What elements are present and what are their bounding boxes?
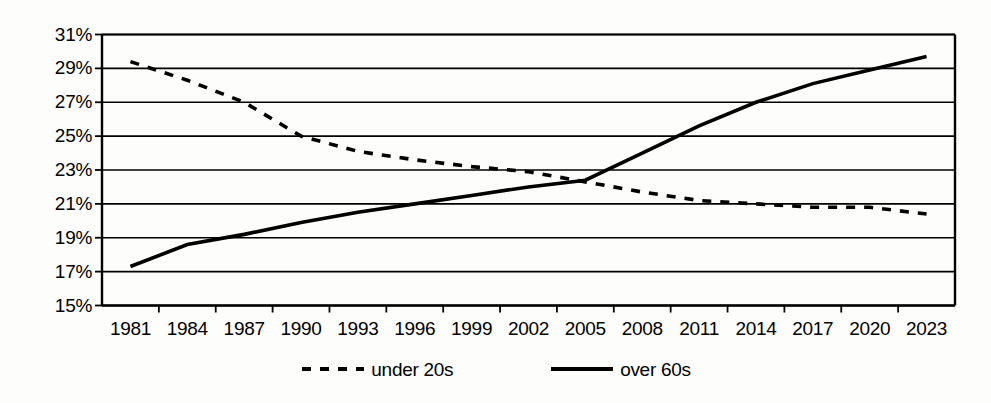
- line-chart: 31%29%27%25%23%21%19%17%15% 198119841987…: [0, 0, 991, 403]
- plot-area: [0, 0, 991, 403]
- series-line-over-60s: [130, 57, 926, 267]
- series-lines: [130, 57, 926, 267]
- dashed-line-swatch: [300, 362, 366, 376]
- legend-label-under-20s: under 20s: [371, 360, 453, 379]
- legend-item-under-20s: under 20s: [300, 360, 453, 379]
- x-axis-tick-label: 2023: [887, 319, 967, 338]
- chart-legend: under 20s over 60s: [0, 352, 991, 386]
- solid-line-swatch: [549, 362, 615, 376]
- legend-item-over-60s: over 60s: [549, 360, 690, 379]
- legend-label-over-60s: over 60s: [620, 360, 690, 379]
